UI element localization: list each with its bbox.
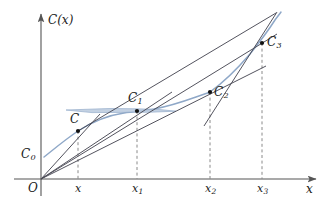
- point-C3: [260, 41, 264, 45]
- point-C1: [135, 109, 139, 113]
- tick-label-x2: x2: [205, 183, 216, 194]
- point-label-c3: C3: [267, 36, 281, 48]
- ray-to-C3: [41, 34, 277, 179]
- origin-rays-group: [41, 34, 277, 179]
- ray-to-C1: [41, 92, 172, 179]
- point-label-c1: C1: [128, 92, 142, 104]
- cost-curve-figure: C(x) x O C0 C C1 C2 C3 x x1 x2 x3: [0, 0, 333, 212]
- point-label-c0: C0: [21, 148, 35, 160]
- diagram-canvas: [0, 0, 333, 212]
- tick-label-x: x: [75, 183, 81, 194]
- tick-label-x3: x3: [257, 183, 268, 194]
- cost-curve-group: [44, 12, 281, 157]
- y-axis-label: C(x): [48, 14, 73, 26]
- tangent-at-C3: [204, 12, 277, 126]
- chord-C-to-C3: [78, 13, 276, 131]
- origin-label: O: [28, 182, 38, 194]
- point-C: [76, 129, 80, 133]
- chord-lines-group: [78, 12, 277, 131]
- point-label-c: C: [70, 113, 79, 125]
- data-points-group: [76, 41, 264, 133]
- point-C2: [208, 90, 212, 94]
- tick-label-x1: x1: [132, 183, 143, 194]
- curve-flat-lens-highlight: [66, 109, 176, 113]
- point-label-c2: C2: [214, 86, 228, 98]
- x-axis-label: x: [306, 183, 313, 195]
- cost-curve-blue: [44, 12, 281, 157]
